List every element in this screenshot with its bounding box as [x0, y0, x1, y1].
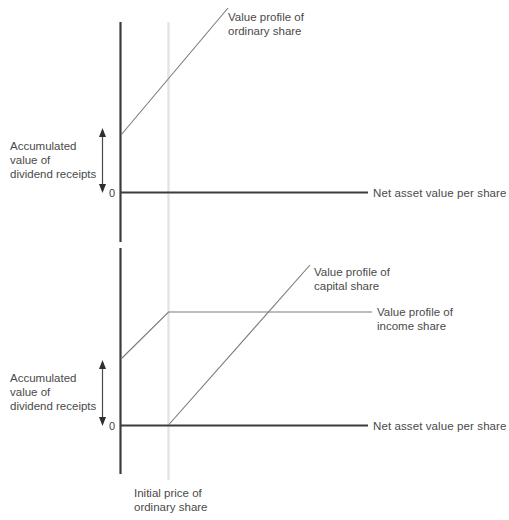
top-accumulated-dividend-label-line3: dividend receipts — [10, 167, 96, 181]
capital-share-profile-label: Value profile of capital share — [314, 265, 390, 293]
ordinary-share-profile-label: Value profile of ordinary share — [228, 10, 304, 38]
bottom-accumulated-dividend-label-line2: value of — [10, 385, 96, 399]
income-share-profile-line — [121, 312, 372, 359]
ordinary-share-profile-label-line1: Value profile of — [228, 10, 304, 24]
ordinary-share-profile-label-line2: ordinary share — [228, 24, 304, 38]
ordinary-share-profile-line — [121, 8, 228, 135]
income-share-profile-label-line1: Value profile of — [377, 305, 453, 319]
bottom-dividend-bracket-arrow — [99, 360, 106, 426]
bottom-zero-tick-label: 0 — [109, 419, 115, 433]
initial-price-gridline-label-line1: Initial price of — [134, 486, 208, 500]
capital-share-profile-line — [169, 265, 311, 425]
top-accumulated-dividend-label: Accumulated value of dividend receipts — [10, 139, 96, 182]
diagram-canvas — [0, 0, 509, 520]
capital-share-profile-label-line2: capital share — [314, 279, 390, 293]
bottom-accumulated-dividend-label-line1: Accumulated — [10, 371, 96, 385]
top-net-asset-value-label: Net asset value per share — [373, 186, 507, 200]
initial-price-gridline-label-line2: ordinary share — [134, 500, 208, 514]
bottom-accumulated-dividend-label-line3: dividend receipts — [10, 399, 96, 413]
top-accumulated-dividend-label-line2: value of — [10, 153, 96, 167]
top-accumulated-dividend-label-line1: Accumulated — [10, 139, 96, 153]
income-share-profile-label: Value profile of income share — [377, 305, 453, 333]
value-profile-diagram: Value profile of ordinary share Accumula… — [0, 0, 509, 520]
top-dividend-bracket-arrow — [99, 128, 106, 193]
initial-price-gridline-label: Initial price of ordinary share — [134, 486, 208, 514]
bottom-accumulated-dividend-label: Accumulated value of dividend receipts — [10, 371, 96, 414]
income-share-profile-label-line2: income share — [377, 319, 453, 333]
bottom-net-asset-value-label: Net asset value per share — [373, 419, 507, 433]
top-zero-tick-label: 0 — [109, 186, 115, 200]
capital-share-profile-label-line1: Value profile of — [314, 265, 390, 279]
